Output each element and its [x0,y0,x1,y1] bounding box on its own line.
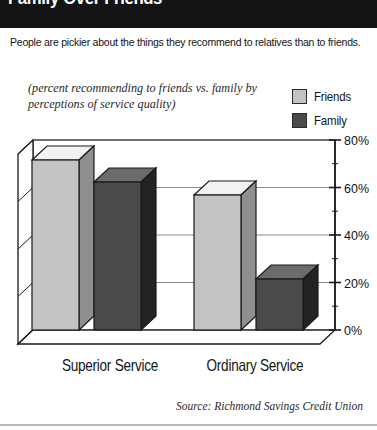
legend-item-friends: Friends [292,86,358,107]
chart-legend: Friends Family [292,86,358,134]
bar-superior-friends [32,146,94,330]
bar-chart: 80% 60% 40% 20% 0% [0,128,377,358]
page-title: Family Over Friends [8,0,162,9]
chart-canvas: 80% 60% 40% 20% 0% [0,128,377,358]
y-tick-label-20: 20% [344,277,369,291]
y-tick-label-80: 80% [344,134,369,148]
deck-text: People are pickier about the things they… [10,36,345,48]
source-note: Source: Richmond Savings Credit Union [176,400,363,412]
y-tick-label-0: 0% [344,324,362,338]
legend-label-friends: Friends [314,89,351,104]
legend-swatch-friends-icon [292,89,307,104]
bar-superior-family [94,168,156,330]
y-tick-label-40: 40% [344,229,369,243]
chart-subtitle: (percent recommending to friends vs. fam… [28,80,268,112]
legend-swatch-family-icon [292,113,307,128]
legend-label-family: Family [314,113,347,128]
x-label-ordinary-service: Ordinary Service [194,356,317,375]
title-bar: Family Over Friends [0,0,377,28]
footer-divider [0,424,377,426]
x-label-superior-service: Superior Service [53,356,168,375]
x-axis-labels: Superior Service Ordinary Service [0,356,377,382]
y-axis-tick-labels: 80% 60% 40% 20% 0% [344,134,369,338]
y-tick-label-60: 60% [344,182,369,196]
bar-ordinary-friends [194,181,256,330]
bar-ordinary-family [256,265,318,330]
